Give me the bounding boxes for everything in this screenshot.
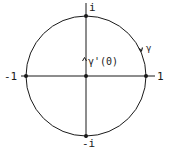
label-i: i <box>89 1 96 14</box>
label-minus-1: -1 <box>4 70 17 83</box>
label-gamma-prime-0: γ'(0) <box>88 56 118 67</box>
label-1: 1 <box>157 70 164 83</box>
point-i <box>84 14 88 18</box>
unit-circle-diagram: i -i -1 1 γ γ'(0) <box>0 0 181 148</box>
point-1 <box>144 74 148 78</box>
point-origin <box>84 74 88 78</box>
label-gamma: γ <box>146 43 151 53</box>
point-minus-1 <box>24 74 28 78</box>
label-minus-i: -i <box>82 137 95 148</box>
